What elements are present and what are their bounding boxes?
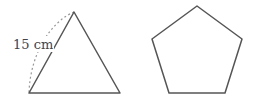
diagram-canvas: 15 cm — [0, 0, 254, 103]
equilateral-triangle — [29, 12, 120, 93]
side-length-label: 15 cm — [13, 37, 53, 52]
regular-pentagon — [152, 6, 242, 93]
